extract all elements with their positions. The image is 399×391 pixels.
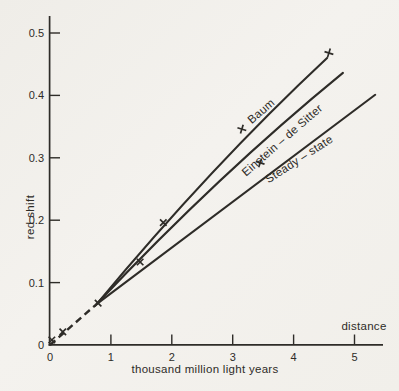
redshift-distance-figure: 01234500.10.20.30.40.5 red shift thousan… [0, 0, 399, 391]
x-tick-label: 4 [291, 351, 297, 363]
y-tick-label: 0.2 [29, 214, 44, 226]
y-tick-label: 0.3 [29, 152, 44, 164]
x-tick-label: 5 [351, 351, 357, 363]
shared-curve-segment [50, 304, 97, 345]
x-tick-label: 0 [47, 351, 53, 363]
x-tick-label: 2 [169, 351, 175, 363]
y-tick-label: 0 [38, 339, 44, 351]
y-tick-label: 0.4 [29, 89, 44, 101]
x-tick-label: 3 [230, 351, 236, 363]
y-tick-label: 0.5 [29, 27, 44, 39]
data-point-marker [236, 123, 247, 134]
y-tick-label: 0.1 [29, 277, 44, 289]
data-point-marker [323, 47, 334, 58]
x-tick-label: 1 [108, 351, 114, 363]
curve-einstein-de-sitter [97, 73, 343, 304]
data-point-marker [254, 157, 265, 168]
chart-canvas: 01234500.10.20.30.40.5 [0, 0, 399, 391]
curve-steady-state [97, 95, 375, 304]
